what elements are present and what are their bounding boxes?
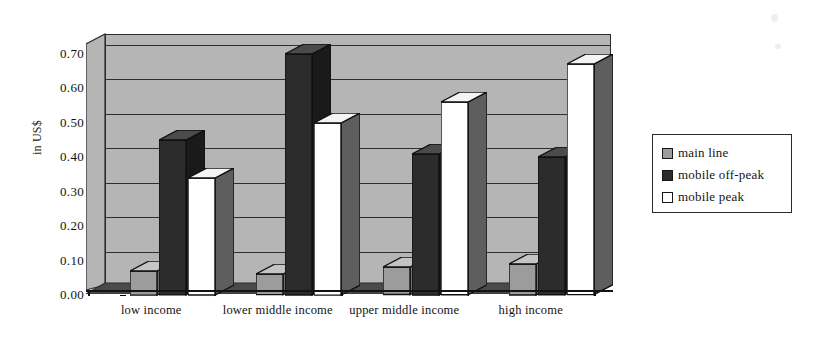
bar (538, 157, 565, 295)
y-tick-label: 0.70 (38, 47, 84, 60)
y-tick-label: 0.60 (38, 81, 84, 94)
bar-3d-shape (314, 113, 360, 297)
bar-3d-shape (567, 54, 613, 297)
bar (412, 154, 439, 295)
bar (314, 123, 341, 295)
legend-item[interactable]: main line (662, 142, 791, 164)
bars-layer (86, 24, 611, 290)
bar-chart: in US$ 0.700.600.500.400.300.200.100.00 … (0, 0, 826, 347)
x-tick-mark (468, 290, 470, 296)
bar (159, 140, 186, 295)
legend-label: mobile off-peak (678, 167, 764, 183)
x-tick-mark (341, 290, 343, 296)
bar (256, 274, 283, 295)
plot-area (86, 24, 611, 290)
x-axis-label: high income (473, 302, 589, 318)
legend-label: main line (678, 145, 729, 161)
x-tick-mark (594, 290, 596, 296)
y-tick-label: 0.50 (38, 116, 84, 129)
bar (441, 102, 468, 295)
x-axis-label: low income (93, 302, 209, 318)
legend-swatch-icon (662, 170, 673, 181)
y-tick-label: 0.10 (38, 254, 84, 267)
x-axis-label: upper middle income (346, 302, 462, 318)
x-tick-mark (88, 290, 90, 296)
x-tick-mark (215, 290, 217, 296)
bar (567, 64, 594, 295)
y-tick-label: 0.00 (38, 288, 84, 301)
x-axis-line (86, 290, 613, 292)
y-tick-mark (120, 295, 126, 296)
y-tick-label: 0.30 (38, 185, 84, 198)
legend-swatch-icon (662, 192, 673, 203)
legend-swatch-icon (662, 148, 673, 159)
legend[interactable]: main linemobile off-peakmobile peak (652, 134, 792, 213)
bar (188, 178, 215, 295)
x-axis-label: lower middle income (220, 302, 336, 318)
bar (285, 54, 312, 295)
scan-artifact (771, 14, 778, 22)
bar-3d-shape (188, 168, 234, 297)
scan-artifact (775, 44, 781, 49)
y-tick-label: 0.40 (38, 150, 84, 163)
legend-item[interactable]: mobile peak (662, 186, 791, 208)
legend-label: mobile peak (678, 189, 744, 205)
y-axis-ticks: 0.700.600.500.400.300.200.100.00 (36, 0, 84, 347)
legend-item[interactable]: mobile off-peak (662, 164, 791, 186)
y-tick-label: 0.20 (38, 219, 84, 232)
bar-3d-shape (441, 92, 487, 297)
